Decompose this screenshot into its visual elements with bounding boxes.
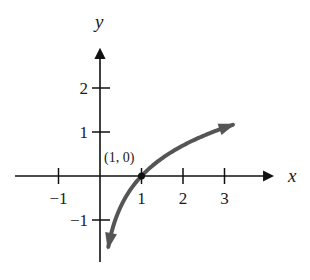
- x-tick-label: 2: [179, 189, 188, 208]
- y-tick-label: −1: [70, 211, 88, 230]
- x-tick-label: 3: [220, 189, 229, 208]
- curve: [105, 124, 235, 250]
- chart: −1123−112 x y (1, 0): [0, 0, 310, 280]
- y-tick-label: 2: [80, 79, 89, 98]
- x-tick-label: 1: [137, 189, 146, 208]
- ticks: −1123−112: [49, 79, 228, 230]
- labels: x y (1, 0): [93, 11, 297, 186]
- x-tick-label: −1: [49, 189, 67, 208]
- ln-curve: [108, 125, 233, 247]
- point-1-0: [138, 173, 145, 180]
- axes: [15, 50, 272, 262]
- y-tick-label: 1: [80, 123, 89, 142]
- curve-arrow-right: [218, 124, 236, 135]
- y-axis-label: y: [93, 11, 104, 32]
- x-axis-label: x: [287, 165, 297, 186]
- point-annotation: (1, 0): [104, 150, 135, 166]
